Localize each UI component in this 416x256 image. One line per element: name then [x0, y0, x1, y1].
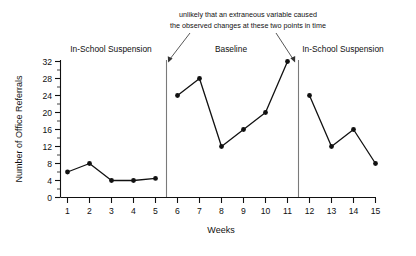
y-tick-32: 32 [42, 57, 52, 67]
y-tick-8: 8 [47, 159, 52, 169]
phase-label-1: In-School Suspension [70, 44, 152, 54]
data-point [109, 178, 114, 183]
data-point [197, 76, 202, 81]
annotation-arrow-left [168, 33, 190, 63]
y-axis-title: Number of Office Referrals [14, 75, 24, 182]
data-point [65, 170, 70, 175]
x-axis-title: Weeks [207, 225, 235, 235]
data-point [131, 178, 136, 183]
phase-label-3: In-School Suspension [302, 44, 384, 54]
x-tick-13: 13 [327, 206, 337, 216]
x-tick-5: 5 [153, 206, 158, 216]
x-tick-11: 11 [283, 206, 292, 216]
x-tick-7: 7 [197, 206, 202, 216]
x-tick-12: 12 [305, 206, 315, 216]
x-tick-14: 14 [349, 206, 359, 216]
data-point [153, 176, 158, 181]
data-point [285, 59, 290, 64]
data-point [219, 144, 224, 149]
series-baseline [175, 59, 290, 149]
y-tick-28: 28 [42, 74, 52, 84]
y-tick-16: 16 [42, 125, 52, 135]
y-axis-tick-labels: 0 4 8 12 16 20 24 28 32 [42, 57, 52, 203]
data-point [241, 127, 246, 132]
x-tick-2: 2 [87, 206, 92, 216]
x-tick-15: 15 [371, 206, 381, 216]
x-tick-8: 8 [219, 206, 224, 216]
y-tick-4: 4 [47, 176, 52, 186]
series-in-school-suspension-2 [307, 93, 378, 166]
x-tick-10: 10 [261, 206, 271, 216]
y-tick-20: 20 [42, 108, 52, 118]
x-tick-1: 1 [65, 206, 70, 216]
data-point [329, 144, 334, 149]
series-in-school-suspension-1 [65, 161, 158, 183]
x-tick-3: 3 [109, 206, 114, 216]
office-referrals-line-chart: unlikely that an extraneous variable cau… [0, 0, 416, 256]
data-point [307, 93, 312, 98]
data-point [263, 110, 268, 115]
x-tick-9: 9 [241, 206, 246, 216]
annotation-arrow-right [276, 33, 295, 62]
data-point [351, 127, 356, 132]
data-point [175, 93, 180, 98]
x-tick-6: 6 [175, 206, 180, 216]
y-tick-12: 12 [42, 142, 52, 152]
x-tick-4: 4 [131, 206, 136, 216]
y-tick-0: 0 [47, 193, 52, 203]
data-point [373, 161, 378, 166]
x-axis-tick-labels: 1 2 3 4 5 6 7 8 9 10 11 12 13 14 15 [65, 206, 380, 216]
annotation-line-2: the observed changes at these two points… [170, 21, 326, 30]
y-tick-24: 24 [42, 91, 52, 101]
x-axis-ticks [68, 198, 376, 204]
annotation-line-1: unlikely that an extraneous variable cau… [179, 10, 317, 19]
phase-label-2: Baseline [215, 44, 247, 54]
y-axis-major-ticks [55, 62, 61, 198]
data-point [87, 161, 92, 166]
